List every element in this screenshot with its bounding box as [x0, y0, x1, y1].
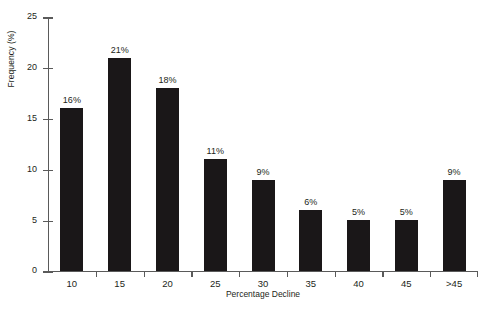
y-axis-tick-label: 25 [27, 11, 37, 22]
x-axis-category-label: 30 [258, 278, 269, 289]
x-axis-tick [430, 272, 431, 277]
bar-value-label: 21% [111, 45, 129, 56]
bar: 9%30 [252, 180, 275, 271]
y-axis-tick: 25 [43, 17, 53, 18]
bar: 21%15 [108, 58, 131, 271]
bar: 11%25 [204, 159, 227, 271]
y-axis-tick: 20 [43, 68, 53, 69]
bar: 18%20 [156, 88, 179, 271]
x-axis-category-label: 45 [401, 278, 412, 289]
x-axis-end-tick [477, 272, 478, 277]
y-axis-tick-label: 15 [27, 113, 37, 124]
x-axis-tick [287, 272, 288, 277]
bar: 5%45 [395, 220, 418, 271]
x-axis-category-label: 20 [162, 278, 173, 289]
bar: 5%40 [347, 220, 370, 271]
bar-value-label: 5% [352, 207, 365, 218]
y-axis-line [48, 18, 49, 272]
y-axis-title-text: Frequency (%) [6, 4, 16, 114]
bar: 9%>45 [443, 180, 466, 271]
x-axis-tick [239, 272, 240, 277]
bar-value-label: 11% [207, 146, 224, 157]
bar-value-label: 18% [158, 75, 176, 86]
y-axis-tick: 10 [43, 170, 53, 171]
y-axis-title: Frequency (%) [6, 4, 20, 114]
bar-chart: Frequency (%) 0510152025 16%1021%1518%20… [0, 0, 490, 311]
x-axis-category-label: 40 [353, 278, 364, 289]
x-axis-category-label: 35 [305, 278, 316, 289]
bar-value-label: 9% [256, 167, 269, 178]
x-axis-tick [191, 272, 192, 277]
x-axis-category-label: 10 [67, 278, 78, 289]
bar-value-label: 9% [448, 167, 461, 178]
bar: 6%35 [299, 210, 322, 271]
x-axis-category-label: >45 [446, 278, 462, 289]
bar: 16%10 [60, 108, 83, 271]
x-axis-category-label: 15 [114, 278, 125, 289]
x-axis-category-label: 25 [210, 278, 221, 289]
y-axis-tick-label: 20 [27, 62, 37, 73]
x-axis-tick [335, 272, 336, 277]
y-axis-tick: 15 [43, 119, 53, 120]
y-axis-tick-label: 5 [32, 215, 37, 226]
x-axis-tick [382, 272, 383, 277]
y-axis-tick-label: 10 [27, 164, 37, 175]
x-axis-tick [144, 272, 145, 277]
y-axis-tick: 0 [43, 271, 53, 272]
plot-area: 0510152025 16%1021%1518%2011%259%306%355… [48, 18, 478, 272]
bar-value-label: 5% [400, 207, 413, 218]
x-axis-title: Percentage Decline [48, 289, 478, 300]
y-axis-tick-label: 0 [32, 265, 37, 276]
bar-value-label: 16% [63, 95, 81, 106]
x-axis-tick [96, 272, 97, 277]
y-axis-tick: 5 [43, 221, 53, 222]
bar-value-label: 6% [304, 197, 317, 208]
